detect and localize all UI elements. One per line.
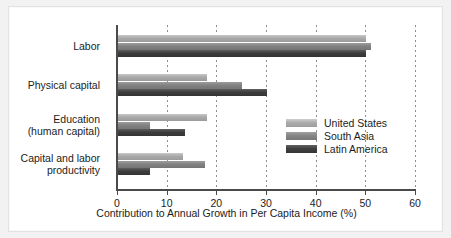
bar	[118, 161, 205, 168]
gridline-60	[415, 25, 416, 189]
category-label: Capital and laborproductivity	[2, 152, 100, 177]
legend-label: United States	[324, 117, 387, 129]
legend-label: South Asia	[324, 130, 374, 142]
bar	[118, 153, 183, 160]
category-label: Education(human capital)	[2, 113, 100, 138]
category-label: Physical capital	[2, 79, 100, 92]
legend-item[interactable]: United States	[286, 117, 388, 129]
tick-60	[415, 191, 416, 195]
bar	[118, 74, 207, 81]
chart-legend: United StatesSouth AsiaLatin America	[286, 117, 388, 156]
legend-item[interactable]: Latin America	[286, 143, 388, 155]
bar	[118, 50, 366, 57]
legend-swatch-icon	[286, 119, 317, 127]
category-label-line: (human capital)	[2, 125, 100, 138]
bar	[118, 114, 207, 121]
bar	[118, 168, 150, 175]
category-label-line: productivity	[2, 164, 100, 177]
tick-30	[266, 191, 267, 195]
bar	[118, 122, 150, 129]
legend-label: Latin America	[324, 143, 388, 155]
plot-area: 0102030405060	[116, 25, 414, 189]
bar	[118, 43, 371, 50]
category-label-line: Capital and labor	[2, 152, 100, 165]
tick-10	[167, 191, 168, 195]
category-label-line: Education	[2, 113, 100, 126]
chart-card: 0102030405060 LaborPhysical capitalEduca…	[8, 6, 443, 232]
legend-item[interactable]: South Asia	[286, 130, 388, 142]
tick-50	[365, 191, 366, 195]
bar	[118, 82, 242, 89]
category-label: Labor	[2, 40, 100, 53]
tick-0	[117, 191, 118, 195]
tick-40	[316, 191, 317, 195]
category-label-line: Labor	[2, 40, 100, 53]
chart-figure: 0102030405060 LaborPhysical capitalEduca…	[0, 0, 451, 238]
bar	[118, 89, 267, 96]
x-axis-title: Contribution to Annual Growth in Per Cap…	[9, 207, 444, 219]
category-label-line: Physical capital	[2, 79, 100, 92]
tick-20	[216, 191, 217, 195]
legend-swatch-icon	[286, 145, 317, 153]
legend-swatch-icon	[286, 132, 317, 140]
bar	[118, 35, 366, 42]
bar	[118, 129, 185, 136]
